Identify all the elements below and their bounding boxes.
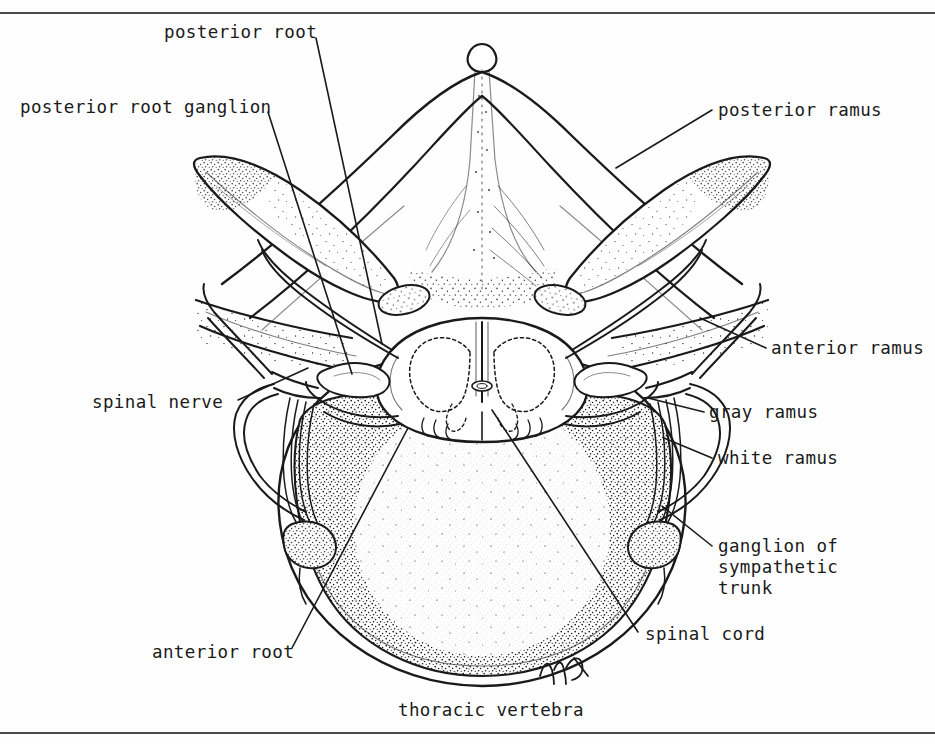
label-posterior-root-ganglion: posterior root ganglion [20, 97, 272, 118]
label-spinal-nerve: spinal nerve [92, 392, 223, 413]
label-gray-ramus: gray ramus [709, 402, 818, 423]
label-ganglion-sympathetic-trunk-line3: trunk [718, 578, 773, 599]
spinous-process [409, 44, 557, 308]
spinal-cord [376, 318, 588, 442]
label-posterior-ramus: posterior ramus [718, 100, 882, 121]
label-anterior-root: anterior root [152, 642, 294, 663]
label-white-ramus: white ramus [718, 448, 838, 469]
figure-page: posterior root posterior root ganglion p… [0, 0, 935, 744]
label-anterior-ramus: anterior ramus [771, 338, 924, 359]
label-posterior-root: posterior root [164, 22, 317, 43]
caption-thoracic-vertebra: thoracic vertebra [398, 700, 584, 721]
leader-posterior-ramus [616, 110, 712, 168]
label-ganglion-sympathetic-trunk-line1: ganglion of [718, 536, 838, 557]
label-spinal-cord: spinal cord [645, 624, 765, 645]
label-ganglion-sympathetic-trunk-line2: sympathetic [718, 557, 838, 578]
